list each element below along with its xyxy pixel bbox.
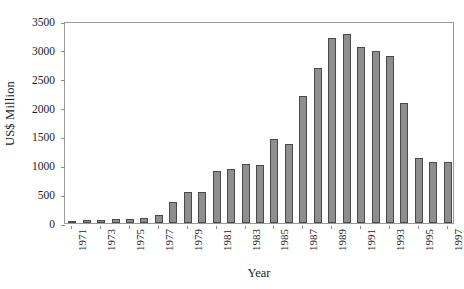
x-axis-tick-mark: [71, 226, 72, 229]
bar: [285, 144, 293, 223]
x-axis-title: Year: [64, 266, 454, 281]
x-axis-tick-label: 1981: [221, 229, 233, 251]
bar: [256, 165, 264, 223]
y-axis-tick-label: 2500: [32, 74, 55, 86]
y-axis-tick-mark: [61, 138, 65, 139]
bar: [155, 215, 163, 223]
bar: [169, 202, 177, 223]
y-axis-tick-label: 3500: [32, 16, 55, 28]
x-axis-tick-label: 1985: [278, 229, 290, 251]
y-axis-tick-mark: [61, 196, 65, 197]
x-axis-tick-mark: [158, 226, 159, 229]
x-axis-tick-label: 1971: [76, 229, 88, 251]
x-axis-tick-label-group: 1971197319751977197919811983198519871989…: [64, 226, 454, 266]
bar: [227, 169, 235, 223]
bar: [97, 220, 105, 223]
bar: [83, 220, 91, 223]
x-axis-tick-label: 1989: [336, 229, 348, 251]
bar: [429, 162, 437, 223]
y-axis-title-text: US$ Million: [4, 80, 19, 145]
x-axis-tick-mark: [302, 226, 303, 229]
x-axis-tick-label: 1977: [163, 229, 175, 251]
bar: [270, 139, 278, 223]
y-axis-tick-label: 2000: [32, 103, 55, 115]
bar: [140, 218, 148, 223]
x-axis-tick-mark: [245, 226, 246, 229]
x-axis-tick-mark: [447, 226, 448, 229]
bars-layer: [65, 23, 453, 223]
x-axis-tick-label: 1979: [192, 229, 204, 251]
bar: [372, 51, 380, 223]
y-axis-tick-label: 1000: [32, 160, 55, 172]
x-axis-tick-mark: [273, 226, 274, 229]
bar: [126, 219, 134, 223]
x-axis-tick-label: 1993: [394, 229, 406, 251]
plot-area: [64, 22, 454, 224]
y-axis-tick-mark: [61, 109, 65, 110]
x-axis-tick-mark: [418, 226, 419, 229]
y-axis-tick-label-group: 0500100015002000250030003500: [20, 22, 60, 224]
bar: [415, 158, 423, 223]
y-axis-tick-label: 1500: [32, 131, 55, 143]
y-axis-tick-mark: [61, 80, 65, 81]
bar: [357, 47, 365, 223]
bar: [184, 192, 192, 223]
x-axis-tick-label: 1997: [452, 229, 464, 251]
y-axis-tick-mark: [61, 23, 65, 24]
bar: [242, 164, 250, 223]
bar: [386, 56, 394, 223]
bar: [400, 103, 408, 223]
x-axis-tick-mark: [100, 226, 101, 229]
x-axis-tick-label: 1987: [307, 229, 319, 251]
bar: [68, 221, 76, 223]
bar: [299, 96, 307, 223]
bar: [112, 219, 120, 223]
x-axis-tick-mark: [360, 226, 361, 229]
bar: [328, 38, 336, 223]
x-axis-tick-mark: [389, 226, 390, 229]
bar: [314, 68, 322, 223]
y-axis-title: US$ Million: [0, 0, 22, 226]
x-axis-tick-mark: [331, 226, 332, 229]
x-axis-tick-label: 1995: [423, 229, 435, 251]
bar-chart-figure: US$ Million 0500100015002000250030003500…: [0, 0, 464, 289]
y-axis-tick-mark: [61, 167, 65, 168]
x-axis-tick-label: 1973: [105, 229, 117, 251]
x-axis-tick-label: 1983: [250, 229, 262, 251]
bar: [343, 34, 351, 223]
x-axis-tick-mark: [187, 226, 188, 229]
x-axis-tick-mark: [129, 226, 130, 229]
x-axis-tick-label: 1975: [134, 229, 146, 251]
y-axis-tick-mark: [61, 51, 65, 52]
x-axis-tick-mark: [216, 226, 217, 229]
y-axis-tick-label: 500: [38, 189, 55, 201]
y-axis-tick-label: 0: [49, 218, 55, 230]
x-axis-tick-label: 1991: [365, 229, 377, 251]
bar: [444, 162, 452, 223]
y-axis-tick-label: 3000: [32, 45, 55, 57]
bar: [198, 192, 206, 223]
bar: [213, 171, 221, 223]
